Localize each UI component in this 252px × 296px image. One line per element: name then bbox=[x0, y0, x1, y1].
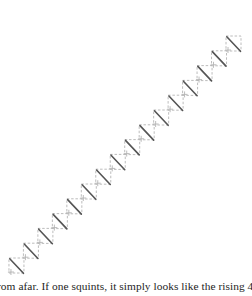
solid-diagonal bbox=[39, 229, 53, 244]
staircase-unit bbox=[109, 154, 125, 171]
solid-diagonal bbox=[140, 126, 154, 141]
body-text-line: rom afar. If one squints, it simply look… bbox=[0, 279, 252, 293]
staircase-unit bbox=[138, 125, 154, 142]
staircase-unit bbox=[182, 80, 198, 97]
solid-diagonal bbox=[53, 214, 67, 229]
solid-diagonal bbox=[126, 140, 140, 155]
solid-diagonal bbox=[10, 259, 24, 274]
solid-diagonal bbox=[169, 96, 183, 111]
staircase-unit bbox=[211, 51, 227, 68]
staircase-unit bbox=[196, 66, 212, 83]
staircase-unit bbox=[66, 199, 82, 216]
solid-diagonal bbox=[212, 52, 226, 67]
staircase-unit bbox=[80, 184, 96, 201]
staircase-unit bbox=[95, 169, 111, 186]
staircase-unit bbox=[153, 110, 169, 127]
staircase-unit bbox=[124, 140, 140, 157]
staircase-unit bbox=[225, 36, 241, 53]
solid-diagonal bbox=[198, 66, 212, 81]
solid-diagonal bbox=[183, 81, 197, 96]
solid-diagonal bbox=[111, 155, 125, 170]
solid-diagonal bbox=[68, 200, 82, 215]
staircase-unit bbox=[37, 228, 53, 245]
staircase-unit bbox=[22, 243, 38, 260]
staircase-unit bbox=[8, 258, 24, 275]
solid-diagonal bbox=[227, 37, 241, 52]
solid-diagonal bbox=[82, 185, 96, 200]
staircase-figure bbox=[0, 0, 252, 280]
staircase-unit bbox=[51, 214, 67, 231]
solid-diagonal bbox=[97, 170, 111, 185]
solid-diagonal bbox=[24, 244, 38, 259]
solid-diagonal bbox=[154, 111, 168, 126]
staircase-unit bbox=[167, 95, 183, 112]
